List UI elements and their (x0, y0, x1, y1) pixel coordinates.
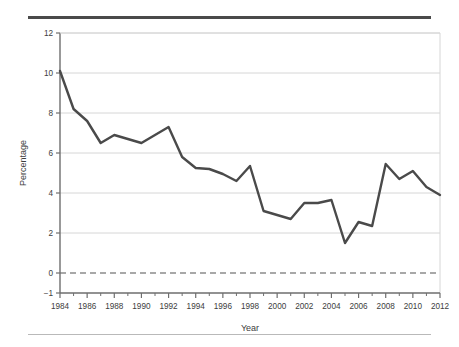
series-percentage-line (60, 71, 440, 243)
x-axis-ticks (60, 293, 440, 298)
y-axis-tick-labels: −1024681012 (44, 29, 54, 298)
x-tick-label-2008: 2008 (377, 302, 396, 311)
y-tick-label--1: −1 (44, 289, 54, 298)
x-tick-label-2004: 2004 (322, 302, 341, 311)
gridlines (60, 33, 440, 233)
y-tick-label-6: 6 (48, 149, 53, 158)
x-tick-label-1988: 1988 (105, 302, 124, 311)
x-tick-label-1986: 1986 (78, 302, 97, 311)
y-tick-label-12: 12 (44, 29, 54, 38)
figure-container: −1024681012 1984198619881990199219941996… (0, 0, 459, 347)
line-chart: −1024681012 1984198619881990199219941996… (0, 0, 459, 347)
x-tick-label-2002: 2002 (295, 302, 314, 311)
y-tick-label-8: 8 (48, 109, 53, 118)
x-axis-title: Year (241, 323, 259, 333)
x-tick-label-1990: 1990 (132, 302, 151, 311)
x-tick-label-1994: 1994 (187, 302, 206, 311)
x-tick-label-1984: 1984 (51, 302, 70, 311)
y-tick-label-4: 4 (48, 189, 53, 198)
x-tick-label-1992: 1992 (159, 302, 178, 311)
x-tick-label-1998: 1998 (241, 302, 260, 311)
x-tick-label-2010: 2010 (404, 302, 423, 311)
data-series-line (60, 71, 440, 243)
y-tick-label-0: 0 (48, 269, 53, 278)
plot-frame (60, 33, 440, 293)
y-tick-label-2: 2 (48, 229, 53, 238)
x-tick-label-2000: 2000 (268, 302, 287, 311)
y-axis-title: Percentage (18, 140, 28, 186)
x-tick-label-1996: 1996 (214, 302, 233, 311)
x-tick-label-2006: 2006 (349, 302, 368, 311)
x-axis-tick-labels: 1984198619881990199219941996199820002002… (51, 302, 450, 311)
x-tick-label-2012: 2012 (431, 302, 450, 311)
y-tick-label-10: 10 (44, 69, 54, 78)
